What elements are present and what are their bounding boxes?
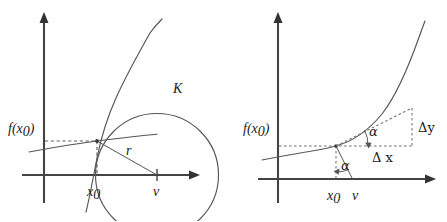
label-x0-right: x0 (326, 188, 340, 206)
label-alpha-lower: α (341, 158, 350, 173)
label-x0-left: x0 (86, 184, 100, 202)
x-axis-left (22, 171, 200, 180)
function-curve-left (29, 134, 157, 152)
tangent-point-left (95, 139, 99, 143)
osculating-circle-K (96, 114, 219, 222)
x-axis-right (258, 175, 436, 184)
label-r: r (126, 143, 132, 158)
function-curve-right (262, 21, 425, 160)
label-v-right: v (352, 188, 359, 203)
label-fx0-left: f(x0) (8, 121, 35, 139)
steep-curve-left (86, 19, 162, 212)
label-K: K (172, 81, 183, 96)
label-fx0-right: f(x0) (243, 121, 270, 139)
label-v-left: v (153, 184, 160, 199)
y-axis-right (274, 12, 283, 203)
label-delta-y: Δy (418, 120, 435, 135)
figure-root: f(x0) K r x0 v (0, 0, 447, 221)
label-delta-x: Δ x (372, 150, 394, 165)
math-diagram: f(x0) K r x0 v (0, 0, 447, 221)
angle-arrow-lower (334, 168, 340, 174)
label-alpha-upper: α (369, 124, 378, 139)
tangent-slope-panel: f(x0) α α Δy Δ x x0 v (243, 12, 436, 206)
osculating-circle-panel: f(x0) K r x0 v (8, 12, 219, 221)
